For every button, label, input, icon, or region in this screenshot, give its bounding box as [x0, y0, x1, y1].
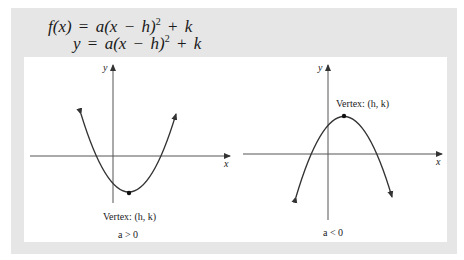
condition-label: a > 0	[118, 229, 138, 240]
parabola-curve-down	[296, 117, 392, 198]
vertex-label: Vertex: (h, k)	[336, 98, 389, 110]
y-axis-label: y	[317, 62, 323, 73]
vertex-point	[127, 191, 131, 195]
x-axis-label: x	[435, 156, 441, 167]
parabola-curve-up	[81, 114, 176, 192]
vertex-point	[342, 114, 346, 118]
y-axis-label: y	[102, 62, 108, 73]
vertex-label: Vertex: (h, k)	[103, 211, 156, 223]
graph-downward: x y Vertex: (h, k) a < 0	[243, 62, 442, 238]
graph-upward: x y Vertex: (h, k) a > 0	[30, 62, 230, 240]
condition-label: a < 0	[323, 227, 343, 238]
parabola-graphs: x y Vertex: (h, k) a > 0 x y Vertex: (h,…	[0, 0, 464, 260]
x-axis-label: x	[223, 158, 229, 169]
